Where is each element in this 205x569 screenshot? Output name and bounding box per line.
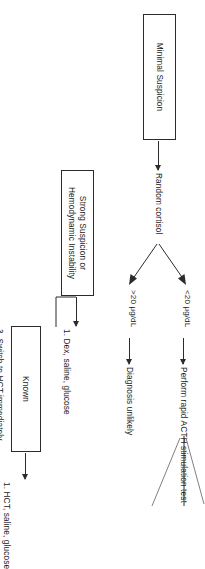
strong-suspicion-lower-connector	[50, 297, 76, 331]
node-minimal-suspicion-label: Minimal Suspicion	[154, 43, 164, 112]
node-known: Known	[11, 326, 41, 452]
step-item: 1. Dex, saline, glucose	[61, 329, 72, 445]
arrow-minimal-to-random-cortisol	[158, 141, 159, 170]
decision-random-cortisol: Random cortisol	[153, 173, 164, 234]
node-strong-suspicion: Strong Suspicion or Hemodynamic Instabil…	[61, 170, 94, 296]
branch-label-high-cortisol: >20 μg/dL	[129, 290, 138, 327]
acth-outcome-connectors	[144, 436, 204, 510]
steps-known: 1. HCT, saline, glucose 2. Search for ca…	[0, 482, 34, 569]
outcome-perform-acth-test: Perform rapid ACTH stimulation test	[178, 367, 189, 503]
arrow-low-cortisol-to-acth-test	[183, 338, 184, 364]
node-known-label: Known	[21, 376, 31, 402]
branch-label-low-cortisol: <20 μg/dL	[183, 290, 192, 327]
branch-split-connector	[128, 244, 186, 286]
arrow-known-to-steps	[25, 453, 26, 479]
step-item: 3. Switch to HCT immediately	[0, 329, 5, 445]
arrow-strong-suspicion-to-steps	[76, 297, 77, 326]
step-item: 1. HCT, saline, glucose	[1, 482, 12, 569]
arrow-high-cortisol-to-diagnosis-unlikely	[129, 338, 130, 364]
node-minimal-suspicion: Minimal Suspicion	[143, 14, 176, 140]
node-strong-suspicion-label: Strong Suspicion or Hemodynamic Instabil…	[67, 187, 88, 279]
outcome-diagnosis-unlikely: Diagnosis unlikely	[124, 367, 135, 435]
